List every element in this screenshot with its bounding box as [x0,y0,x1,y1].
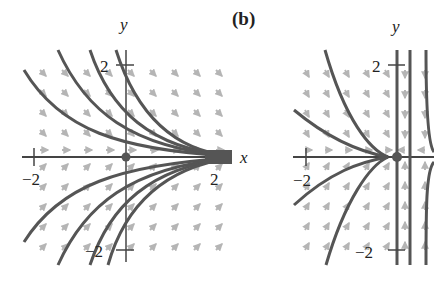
y-tick-neg2-a: −2 [85,242,103,261]
x-tick-neg2-a: −2 [22,170,40,189]
equilibrium-point-b [392,152,402,162]
panel-b-label: (b) [232,8,255,30]
y-tick-neg2-b: −2 [355,243,373,262]
x-tick-neg2-b: −2 [293,171,311,190]
panel-a: y x 2 −2 −2 2 [22,15,248,265]
phase-portrait-figure: y x 2 −2 −2 2 (b) y 2 −2 −2 [0,0,434,288]
y-tick-2-a: 2 [100,57,109,76]
vector-field-b [305,70,425,250]
x-tick-2-a: 2 [210,170,219,189]
y-axis-label-a: y [118,15,128,34]
equilibrium-point-a [122,153,131,162]
panel-b: y 2 −2 −2 [293,17,434,265]
x-axis-label-a: x [239,148,248,167]
y-axis-label-b: y [390,17,400,36]
y-tick-2-b: 2 [372,57,381,76]
